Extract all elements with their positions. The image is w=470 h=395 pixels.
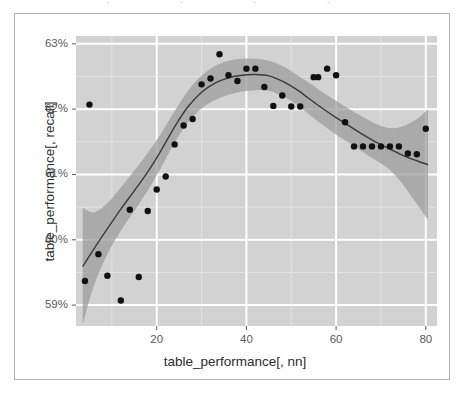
x-axis-title: table_performance[, nn] (0, 354, 470, 369)
x-tick-label: 60 (316, 333, 356, 345)
x-tick-label: 40 (226, 333, 266, 345)
y-axis-title: table_performance[, recall] (42, 37, 57, 327)
x-tick-label: 80 (406, 333, 446, 345)
chart-plot-area: 59%60%61%62%63% 20406080 table_performan… (0, 0, 470, 395)
x-tick-label: 20 (137, 333, 177, 345)
